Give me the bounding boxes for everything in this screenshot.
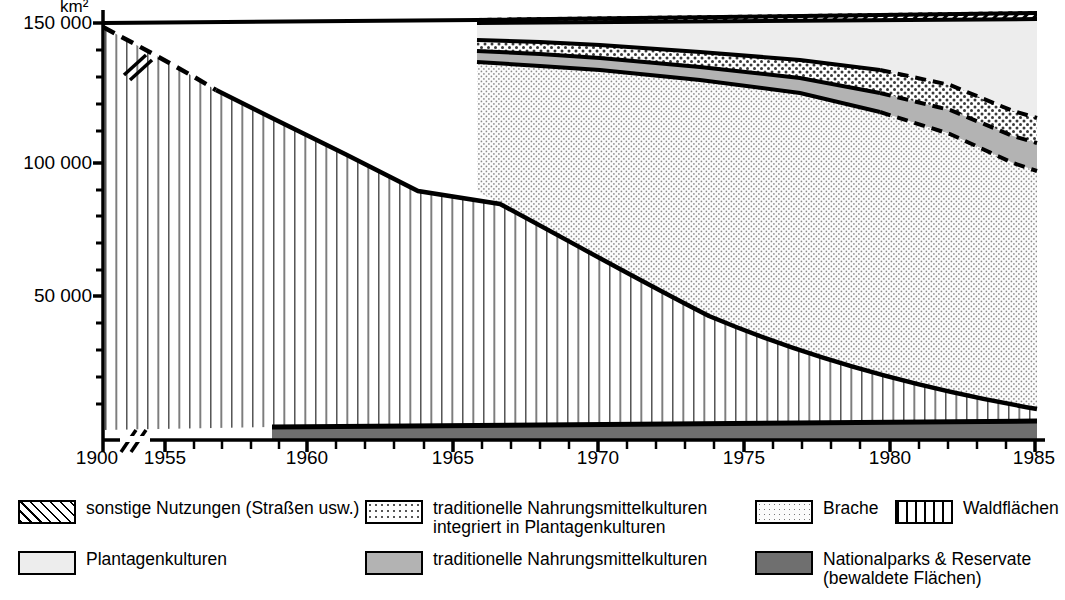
x-tick-label-1975: 1975 <box>709 447 779 469</box>
legend-label-nationalparks: Nationalparks & Reservate (bewaldete Flä… <box>823 550 1031 588</box>
x-tick-label-1955: 1955 <box>130 447 200 469</box>
x-tick-label-1960: 1960 <box>272 447 342 469</box>
legend-item-brache[interactable]: Brache <box>755 499 878 524</box>
y-tick-label-50000: 50 000 <box>0 285 92 307</box>
swatch-coarse-dots-icon <box>365 500 423 524</box>
legend-item-other-uses[interactable]: sonstige Nutzungen (Straßen usw.) <box>18 499 359 524</box>
legend-item-waldflaechen[interactable]: Waldflächen <box>895 499 1059 524</box>
swatch-dark-gray-icon <box>755 551 813 575</box>
swatch-medium-gray-icon <box>365 551 423 575</box>
x-tick-label-1985: 1985 <box>999 447 1065 469</box>
y-tick-label-100000: 100 000 <box>0 152 92 174</box>
legend-label-plantagenkulturen: Plantagenkulturen <box>86 550 227 569</box>
legend: sonstige Nutzungen (Straßen usw.) tradit… <box>0 492 1065 600</box>
y-tick-label-150000: 150 000 <box>0 12 92 34</box>
legend-item-traditional-integrated[interactable]: traditionelle Nahrungsmittelkulturen int… <box>365 499 707 537</box>
swatch-fine-dots-icon <box>755 500 813 524</box>
swatch-light-gray-icon <box>18 551 76 575</box>
legend-label-waldflaechen: Waldflächen <box>963 499 1059 518</box>
x-tick-label-1970: 1970 <box>563 447 633 469</box>
legend-label-nationalparks-line2: (bewaldete Flächen) <box>823 569 1031 588</box>
swatch-vertical-lines-icon <box>895 500 953 524</box>
chart-page: km² 150 000 100 000 50 000 1900 1955 196… <box>0 0 1065 600</box>
x-tick-label-1980: 1980 <box>855 447 925 469</box>
legend-item-nationalparks[interactable]: Nationalparks & Reservate (bewaldete Flä… <box>755 550 1031 588</box>
chart-area: km² 150 000 100 000 50 000 1900 1955 196… <box>0 0 1065 492</box>
legend-label-traditional-integrated-line2: integriert in Plantagenkulturen <box>433 518 707 537</box>
legend-item-traditional[interactable]: traditionelle Nahrungsmittelkulturen <box>365 550 707 575</box>
x-tick-label-1900: 1900 <box>62 447 132 469</box>
x-tick-label-1965: 1965 <box>418 447 488 469</box>
swatch-diagonal-hatch-icon <box>18 500 76 524</box>
legend-label-traditional-integrated-line1: traditionelle Nahrungsmittelkulturen <box>433 498 707 518</box>
chart-plot <box>0 0 1065 492</box>
legend-label-traditional-integrated: traditionelle Nahrungsmittelkulturen int… <box>433 499 707 537</box>
legend-item-plantagenkulturen[interactable]: Plantagenkulturen <box>18 550 227 575</box>
legend-label-other-uses: sonstige Nutzungen (Straßen usw.) <box>86 499 359 518</box>
legend-label-nationalparks-line1: Nationalparks & Reservate <box>823 549 1031 569</box>
legend-label-brache: Brache <box>823 499 878 518</box>
legend-label-traditional: traditionelle Nahrungsmittelkulturen <box>433 550 707 569</box>
